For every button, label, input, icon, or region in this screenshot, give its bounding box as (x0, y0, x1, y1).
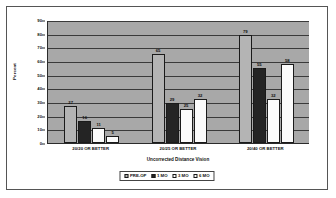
y-axis-title: Percent (12, 63, 17, 80)
bar-group: 65292532 (152, 21, 207, 143)
legend-item: 1 MO (151, 174, 167, 178)
bar-column[interactable]: 55 (253, 21, 266, 143)
bar[interactable] (281, 64, 294, 143)
bar-value-label: 11 (96, 123, 100, 127)
x-axis-category-label: 20/20 OR BETTER (72, 147, 109, 151)
bar[interactable] (194, 99, 207, 143)
y-axis-tick-mark (42, 130, 45, 131)
x-axis-category-label: 20/40 OR BETTER (247, 147, 284, 151)
bar[interactable] (106, 136, 119, 143)
bar-value-label: 65 (156, 49, 161, 53)
bar-value-label: 16 (82, 116, 87, 120)
plot-region: 27161156529253279553258 (47, 21, 309, 144)
bar[interactable] (152, 54, 165, 143)
y-axis-tick-mark (42, 21, 45, 22)
bar[interactable] (267, 99, 280, 143)
bar-column[interactable]: 11 (92, 21, 105, 143)
y-axis-tick-mark (42, 75, 45, 76)
legend-label: 3 MO (178, 174, 189, 178)
legend-item: 3 MO (172, 174, 188, 178)
y-axis-tick-mark (42, 144, 45, 145)
legend-swatch-icon (172, 174, 176, 178)
legend-swatch-icon (124, 174, 128, 178)
legend-label: PRE-OP (130, 174, 146, 178)
legend-item: 6 MO (194, 174, 210, 178)
bar[interactable] (78, 121, 91, 143)
bar-value-label: 79 (243, 30, 248, 34)
chart-frame: Percent 0102030405060708090 271611565292… (6, 6, 328, 190)
plot-area: 27161156529253279553258 (47, 21, 309, 144)
bar-column[interactable]: 27 (64, 21, 77, 143)
bar-column[interactable]: 65 (152, 21, 165, 143)
bar-column[interactable]: 5 (106, 21, 119, 143)
bar-value-label: 29 (170, 98, 175, 102)
bar-column[interactable]: 58 (281, 21, 294, 143)
bar-value-label: 32 (198, 94, 203, 98)
y-axis-tick-mark (42, 89, 45, 90)
legend-label: 1 MO (157, 174, 168, 178)
bar-value-label: 32 (271, 94, 276, 98)
bar-value-label: 55 (257, 63, 262, 67)
y-axis-tick-mark (42, 48, 45, 49)
bar-column[interactable]: 32 (267, 21, 280, 143)
x-axis-title: Uncorrected Distance Vision (47, 157, 309, 162)
legend-swatch-icon (194, 174, 198, 178)
x-axis-tick-labels: 20/20 OR BETTER20/25 OR BETTER20/40 OR B… (47, 147, 309, 156)
legend-label: 6 MO (199, 174, 210, 178)
bar-column[interactable]: 25 (180, 21, 193, 143)
y-axis-tick-mark (42, 103, 45, 104)
bar[interactable] (239, 35, 252, 143)
bar-group: 79553258 (239, 21, 294, 143)
chart-legend: PRE-OP1 MO3 MO6 MO (119, 171, 214, 181)
bar[interactable] (180, 109, 193, 143)
x-axis-category-label: 20/25 OR BETTER (160, 147, 197, 151)
bar[interactable] (64, 106, 77, 143)
bar[interactable] (166, 103, 179, 143)
legend-swatch-icon (151, 174, 155, 178)
bar-value-label: 58 (285, 59, 290, 63)
bar-column[interactable]: 32 (194, 21, 207, 143)
bar-group: 2716115 (64, 21, 119, 143)
bar-value-label: 25 (184, 104, 189, 108)
bar-value-label: 27 (68, 101, 73, 105)
bar-column[interactable]: 79 (239, 21, 252, 143)
bar-column[interactable]: 29 (166, 21, 179, 143)
legend-item: PRE-OP (124, 174, 146, 178)
y-axis-tick-mark (42, 34, 45, 35)
y-axis-tick-labels: 0102030405060708090 (21, 21, 45, 144)
y-axis-tick-mark (42, 116, 45, 117)
bar[interactable] (253, 68, 266, 143)
bar[interactable] (92, 128, 105, 143)
y-axis-tick-mark (42, 62, 45, 63)
bar-column[interactable]: 16 (78, 21, 91, 143)
bar-value-label: 5 (111, 131, 113, 135)
